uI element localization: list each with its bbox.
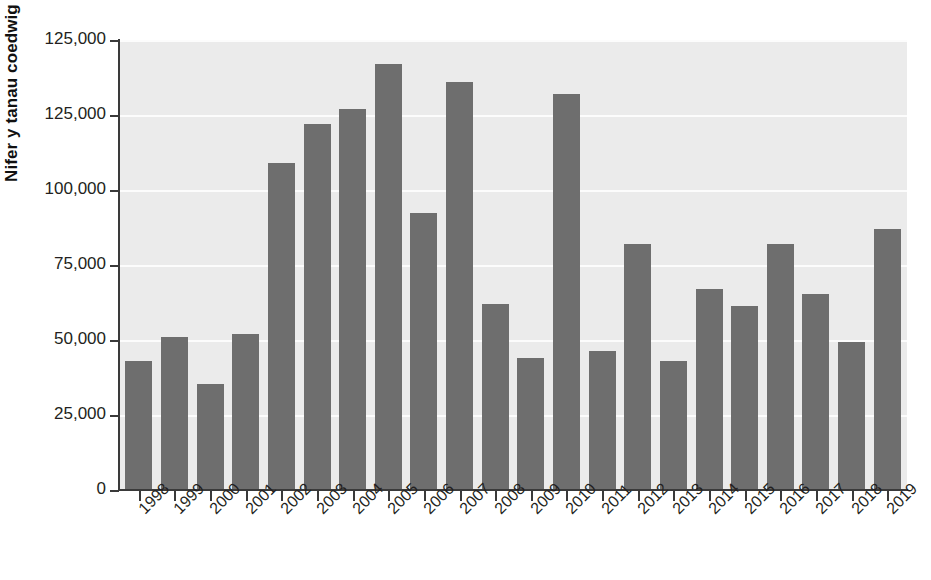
bar[interactable] (268, 163, 295, 490)
bar-slot (691, 40, 727, 490)
bar-slot (406, 40, 442, 490)
bar-slot (121, 40, 157, 490)
bar[interactable] (696, 289, 723, 490)
y-axis-label: 50,000 (2, 329, 106, 349)
bar-slot (620, 40, 656, 490)
bar-slot (228, 40, 264, 490)
y-axis-label: 125,000 (2, 29, 106, 49)
y-axis-tick (110, 415, 119, 417)
bar-slot (763, 40, 799, 490)
chart-figure: a deall o'r cyfnod hwn, sydd gan y wybod… (0, 0, 931, 580)
bar[interactable] (767, 244, 794, 490)
y-axis-title: Nifer y tanau coedwig (2, 0, 22, 182)
bar[interactable] (304, 124, 331, 490)
y-axis-tick (110, 115, 119, 117)
bar-slot (549, 40, 585, 490)
y-axis-label: 25,000 (2, 404, 106, 424)
bar-slot (477, 40, 513, 490)
bar[interactable] (660, 361, 687, 490)
bar-slot (442, 40, 478, 490)
bar[interactable] (375, 64, 402, 490)
y-axis-label: 100,000 (2, 179, 106, 199)
bar[interactable] (339, 109, 366, 490)
bar[interactable] (874, 229, 901, 490)
y-axis-label: 125,000 (2, 104, 106, 124)
bar[interactable] (446, 82, 473, 490)
bar[interactable] (731, 306, 758, 491)
bar-slot (335, 40, 371, 490)
bar-slot (192, 40, 228, 490)
bar-slot (656, 40, 692, 490)
y-axis-tick (110, 490, 119, 492)
bar[interactable] (410, 213, 437, 491)
bar-slot (798, 40, 834, 490)
bar[interactable] (802, 294, 829, 491)
y-axis-tick (110, 40, 119, 42)
bar-slot (370, 40, 406, 490)
y-axis-tick (110, 265, 119, 267)
bar[interactable] (589, 351, 616, 491)
bar-slot (299, 40, 335, 490)
bar-slot (869, 40, 905, 490)
bar[interactable] (553, 94, 580, 490)
y-axis-tick (110, 340, 119, 342)
bar-slot (513, 40, 549, 490)
bar-slot (584, 40, 620, 490)
bar[interactable] (838, 342, 865, 491)
bar-slot (264, 40, 300, 490)
bar-slot (157, 40, 193, 490)
bar[interactable] (197, 384, 224, 491)
bar-slot (834, 40, 870, 490)
bar-slot (727, 40, 763, 490)
bar[interactable] (482, 304, 509, 490)
bar[interactable] (232, 334, 259, 490)
bar[interactable] (161, 337, 188, 490)
plot-area (119, 40, 907, 490)
bar[interactable] (517, 358, 544, 490)
bar[interactable] (125, 361, 152, 490)
bar[interactable] (624, 244, 651, 490)
y-axis-label: 75,000 (2, 254, 106, 274)
y-axis-tick (110, 190, 119, 192)
bar-series (119, 40, 907, 490)
y-axis-label: 0 (2, 479, 106, 499)
